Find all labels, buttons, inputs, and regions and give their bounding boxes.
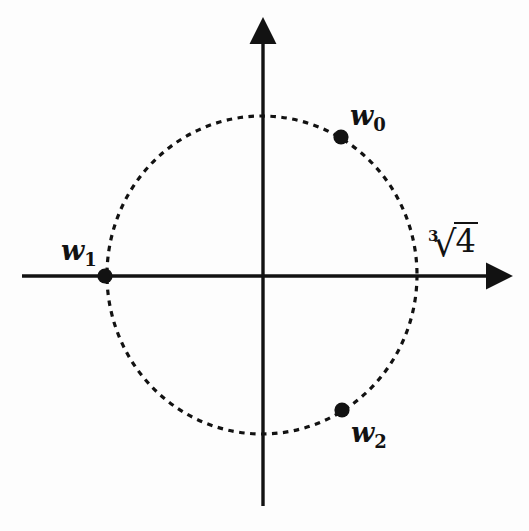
label-w2: w2 (351, 419, 387, 451)
label-w1-var: w (61, 235, 84, 266)
label-w0-var: w (350, 100, 373, 131)
point-w2 (334, 402, 349, 417)
label-w0-subscript: 0 (373, 114, 386, 135)
radicand: 4 (454, 222, 477, 257)
label-w2-var: w (351, 417, 374, 448)
point-w1 (97, 268, 112, 283)
label-w0: w0 (350, 102, 386, 134)
cube-root-of-four-label: 3√4 (425, 224, 482, 260)
label-w2-subscript: 2 (374, 431, 387, 452)
radical-sign-icon: √ (433, 223, 456, 264)
point-w0 (333, 129, 348, 144)
label-w1: w1 (61, 237, 97, 269)
figure-canvas: w0 w1 w2 3√4 (0, 0, 529, 531)
label-w1-subscript: 1 (84, 249, 97, 270)
